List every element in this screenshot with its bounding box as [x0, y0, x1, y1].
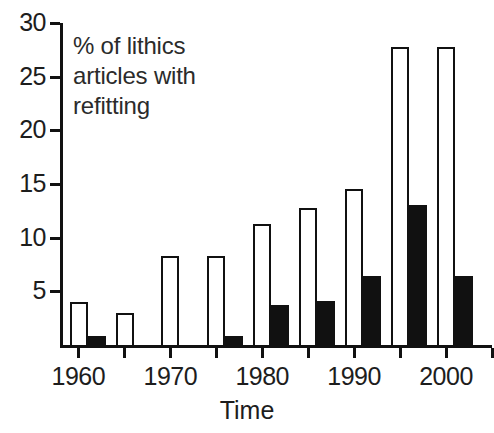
y-axis-tick-label: 25: [0, 64, 46, 89]
bar-open: [299, 208, 317, 345]
bar-chart-figure: 30252015105 19601970198019902000 % of li…: [0, 0, 494, 433]
y-axis-tick-label-text: 20: [2, 117, 46, 142]
y-axis-tick-label-text: 25: [2, 64, 46, 89]
y-axis-tick-label: 20: [0, 117, 46, 142]
x-axis-minor-tick: [399, 348, 402, 358]
bar-open: [116, 313, 134, 345]
y-axis-tick-label: 30: [0, 10, 46, 35]
y-axis-tick: [50, 22, 60, 25]
bar-open: [253, 224, 271, 345]
bar-open: [345, 189, 363, 345]
bar-filled: [363, 276, 381, 345]
y-axis-tick: [50, 76, 60, 79]
bar-filled: [455, 276, 473, 345]
y-axis-tick-label: 15: [0, 171, 46, 196]
x-axis-minor-tick: [215, 348, 218, 358]
y-axis-tick-label-text: 30: [2, 10, 46, 35]
x-axis-tick-label: 1990: [314, 362, 394, 390]
y-axis-tick-label-text: 15: [2, 171, 46, 196]
x-axis-tick-label: 1960: [38, 362, 118, 390]
y-axis-tick: [50, 183, 60, 186]
y-axis-tick-label: 10: [0, 225, 46, 250]
y-axis-tick: [50, 129, 60, 132]
y-axis-tick-label: 5: [0, 278, 46, 303]
x-axis-tick: [169, 348, 172, 358]
y-axis-tick: [50, 290, 60, 293]
x-axis-tick: [261, 348, 264, 358]
bar-filled: [225, 336, 243, 345]
bar-filled: [271, 305, 289, 345]
y-axis-tick: [50, 237, 60, 240]
bar-open: [437, 47, 455, 345]
y-axis-tick-label-text: 10: [2, 225, 46, 250]
y-axis-line: [60, 23, 63, 347]
x-axis-tick: [77, 348, 80, 358]
x-axis-tick-label: 1980: [222, 362, 302, 390]
x-axis-title: Time: [0, 396, 494, 424]
x-axis-minor-tick: [123, 348, 126, 358]
x-axis-tick-label: 2000: [406, 362, 486, 390]
x-axis-tick-label: 1970: [130, 362, 210, 390]
bar-filled: [88, 336, 106, 345]
bar-filled: [409, 205, 427, 345]
chart-annotation: % of lithics articles with refitting: [73, 31, 273, 121]
bar-open: [391, 47, 409, 345]
x-axis-tick: [445, 348, 448, 358]
bar-open: [161, 256, 179, 345]
y-axis-tick-label-text: 5: [2, 278, 46, 303]
x-axis-tick: [353, 348, 356, 358]
bar-open: [70, 302, 88, 345]
x-axis-minor-tick: [307, 348, 310, 358]
bar-open: [207, 256, 225, 345]
bar-filled: [317, 301, 335, 345]
